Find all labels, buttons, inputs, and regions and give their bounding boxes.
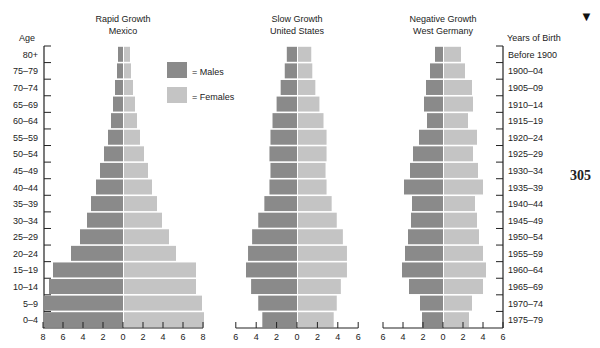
female-bar bbox=[124, 213, 162, 228]
birth-year-label: 1960–64 bbox=[508, 265, 543, 275]
male-bar bbox=[248, 246, 297, 261]
female-bar bbox=[124, 296, 202, 311]
male-bar bbox=[115, 80, 123, 95]
x-tick-label: 6 bbox=[233, 332, 238, 342]
female-bar bbox=[124, 229, 169, 244]
female-bar bbox=[298, 113, 324, 128]
male-bar bbox=[43, 296, 123, 311]
female-bar bbox=[124, 47, 130, 62]
female-bar bbox=[298, 196, 332, 211]
chart-title: Rapid Growth bbox=[95, 14, 150, 24]
birth-year-label: 1955–59 bbox=[508, 249, 543, 259]
male-bar bbox=[264, 196, 297, 211]
females-swatch bbox=[167, 87, 187, 103]
male-bar bbox=[49, 279, 123, 294]
male-bar bbox=[71, 246, 123, 261]
age-label: 5–9 bbox=[23, 299, 38, 309]
x-tick-label: 2 bbox=[140, 332, 145, 342]
birth-year-label: Before 1900 bbox=[508, 50, 557, 60]
chart-subtitle: Mexico bbox=[109, 26, 138, 36]
female-bar bbox=[298, 47, 311, 62]
male-bar bbox=[96, 180, 123, 195]
x-tick-label: 2 bbox=[460, 332, 465, 342]
male-bar bbox=[113, 97, 123, 112]
female-bar bbox=[298, 63, 312, 78]
male-bar bbox=[285, 63, 297, 78]
x-tick-label: 6 bbox=[60, 332, 65, 342]
female-bar bbox=[124, 97, 135, 112]
female-bar bbox=[124, 180, 152, 195]
x-tick-label: 0 bbox=[440, 332, 445, 342]
female-bar bbox=[298, 279, 341, 294]
female-bar bbox=[444, 130, 477, 145]
female-bar bbox=[444, 180, 483, 195]
age-label: 10–14 bbox=[13, 282, 38, 292]
female-bar bbox=[444, 312, 469, 327]
female-bar bbox=[124, 246, 176, 261]
age-label: 80+ bbox=[23, 50, 38, 60]
female-bar bbox=[444, 80, 472, 95]
female-bar bbox=[124, 163, 148, 178]
female-bar bbox=[444, 213, 477, 228]
birth-year-label: 1915–19 bbox=[508, 116, 543, 126]
age-label: 75–79 bbox=[13, 66, 38, 76]
male-bar bbox=[412, 196, 443, 211]
female-bar bbox=[444, 97, 473, 112]
female-bar bbox=[298, 80, 315, 95]
male-bar bbox=[246, 262, 297, 277]
x-tick-label: 6 bbox=[380, 332, 385, 342]
male-bar bbox=[420, 296, 443, 311]
female-bar bbox=[444, 262, 486, 277]
age-label: 70–74 bbox=[13, 83, 38, 93]
female-bar bbox=[298, 213, 337, 228]
female-bar bbox=[298, 97, 319, 112]
age-label: 0–4 bbox=[23, 315, 38, 325]
male-bar bbox=[430, 63, 443, 78]
birth-year-label: 1935–39 bbox=[508, 183, 543, 193]
female-bar bbox=[298, 296, 337, 311]
female-bar bbox=[124, 63, 131, 78]
birth-year-label: 1950–54 bbox=[508, 232, 543, 242]
x-tick-label: 4 bbox=[480, 332, 485, 342]
x-tick-label: 6 bbox=[180, 332, 185, 342]
years-of-birth-axis: Years of BirthBefore 19001900–041905–091… bbox=[496, 33, 561, 328]
male-bar bbox=[413, 146, 443, 161]
males-legend-label: = Males bbox=[192, 67, 224, 77]
male-bar bbox=[424, 97, 443, 112]
x-tick-label: 4 bbox=[400, 332, 405, 342]
age-label: 55–59 bbox=[13, 133, 38, 143]
female-bar bbox=[124, 80, 133, 95]
chart-title: Negative Growth bbox=[409, 14, 476, 24]
female-bar bbox=[444, 246, 483, 261]
birth-year-label: 1910–14 bbox=[508, 100, 543, 110]
years-axis-title: Years of Birth bbox=[507, 33, 561, 43]
female-bar bbox=[124, 279, 196, 294]
male-bar bbox=[402, 262, 443, 277]
age-label: 45–49 bbox=[13, 166, 38, 176]
male-bar bbox=[273, 113, 297, 128]
female-bar bbox=[298, 163, 326, 178]
x-tick-label: 0 bbox=[120, 332, 125, 342]
female-bar bbox=[298, 180, 327, 195]
birth-year-label: 1965–69 bbox=[508, 282, 543, 292]
male-bar bbox=[111, 113, 123, 128]
female-bar bbox=[444, 229, 479, 244]
female-bar bbox=[298, 229, 343, 244]
x-tick-label: 2 bbox=[315, 332, 320, 342]
male-bar bbox=[104, 146, 123, 161]
female-bar bbox=[444, 47, 461, 62]
female-bar bbox=[444, 279, 483, 294]
male-bar bbox=[269, 146, 297, 161]
birth-year-label: 1920–24 bbox=[508, 133, 543, 143]
age-axis: Age80+75–7970–7465–6960–6455–5950–5445–4… bbox=[13, 33, 51, 328]
female-bar bbox=[298, 246, 347, 261]
age-label: 35–39 bbox=[13, 199, 38, 209]
male-bar bbox=[91, 196, 123, 211]
male-bar bbox=[117, 63, 123, 78]
page-marker-icon: ▼ bbox=[580, 9, 593, 24]
birth-year-label: 1940–44 bbox=[508, 199, 543, 209]
male-bar bbox=[277, 97, 297, 112]
birth-year-label: 1925–29 bbox=[508, 149, 543, 159]
male-bar bbox=[281, 80, 297, 95]
male-bar bbox=[409, 279, 443, 294]
